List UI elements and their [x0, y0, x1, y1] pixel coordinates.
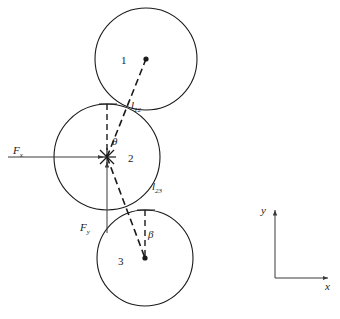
centerline-2-to-3 — [107, 157, 145, 258]
contact-force-diagram: 1 2 3 l12 l23 θ β Fx Fy y x — [0, 0, 340, 319]
diagram-canvas — [0, 0, 340, 319]
force-label-fx: Fx — [13, 145, 23, 159]
contact-label-23-subscript: 23 — [155, 187, 162, 195]
angle-label-theta: θ — [112, 136, 117, 147]
body-label-3: 3 — [118, 256, 124, 267]
contact-label-12: l12 — [131, 100, 141, 114]
force-label-fx-subscript: x — [20, 151, 23, 159]
contact-label-23: l23 — [152, 181, 162, 195]
body-label-1: 1 — [121, 55, 127, 66]
center-dot-body-3 — [142, 255, 147, 260]
force-label-fy-base: F — [80, 221, 87, 233]
force-label-fy: Fy — [80, 222, 90, 236]
axis-label-y: y — [261, 205, 266, 216]
angle-label-beta: β — [148, 229, 153, 240]
body-label-2: 2 — [128, 153, 134, 164]
contact-label-12-subscript: 12 — [134, 106, 141, 114]
center-dot-body-1 — [143, 56, 148, 61]
force-label-fy-subscript: y — [87, 228, 90, 236]
axis-label-x: x — [325, 281, 330, 292]
force-label-fx-base: F — [13, 144, 20, 156]
